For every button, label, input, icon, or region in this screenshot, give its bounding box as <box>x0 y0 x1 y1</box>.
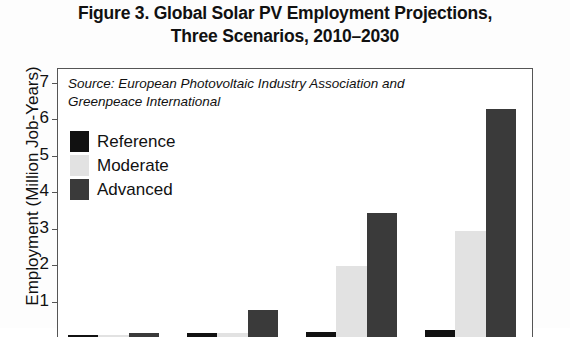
legend-item-advanced[interactable]: Advanced <box>70 177 175 201</box>
bar-advanced-2030 <box>486 109 517 337</box>
legend-swatch-icon-advanced <box>70 179 89 200</box>
legend-swatch-icon-moderate <box>70 155 89 176</box>
y-tick-mark-4 <box>52 192 58 193</box>
y-tick-mark-2 <box>52 265 58 266</box>
chart-title-line-2: Three Scenarios, 2010–2030 <box>0 25 570 48</box>
legend-item-reference[interactable]: Reference <box>70 129 175 153</box>
chart-title: Figure 3. Global Solar PV Employment Pro… <box>0 2 570 48</box>
legend-label: Advanced <box>97 180 173 199</box>
bar-reference-2015 <box>187 333 218 337</box>
y-tick-label-5: 5 <box>27 146 49 163</box>
y-tick-label-4: 4 <box>27 182 49 199</box>
y-tick-mark-7 <box>52 83 58 84</box>
legend-label: Reference <box>97 132 175 151</box>
bar-moderate-2015 <box>217 333 248 337</box>
y-tick-mark-3 <box>52 229 58 230</box>
bar-moderate-2020 <box>336 266 367 337</box>
legend-swatch-icon-reference <box>70 131 89 152</box>
y-tick-mark-6 <box>52 119 58 120</box>
chart-title-line-1: Figure 3. Global Solar PV Employment Pro… <box>0 2 570 25</box>
chart-legend: ReferenceModerateAdvanced <box>70 129 175 201</box>
plot-area: Source: European Photovoltaic Industry A… <box>57 68 533 337</box>
y-tick-label-6: 6 <box>27 109 49 126</box>
y-tick-label-3: 3 <box>27 219 49 236</box>
bar-advanced-2010 <box>129 333 160 337</box>
source-note-line-1: Source: European Photovoltaic Industry A… <box>68 76 378 91</box>
source-note: Source: European Photovoltaic Industry A… <box>68 75 418 111</box>
y-tick-mark-1 <box>52 302 58 303</box>
legend-item-moderate[interactable]: Moderate <box>70 153 175 177</box>
bar-advanced-2020 <box>367 213 398 337</box>
y-tick-label-7: 7 <box>27 73 49 90</box>
bar-reference-2020 <box>306 332 337 337</box>
y-tick-label-1: 1 <box>27 292 49 309</box>
bar-moderate-2030 <box>455 231 486 337</box>
bar-advanced-2015 <box>248 310 279 337</box>
legend-label: Moderate <box>97 156 169 175</box>
y-tick-mark-5 <box>52 156 58 157</box>
bar-reference-2030 <box>425 330 456 337</box>
y-tick-label-2: 2 <box>27 255 49 272</box>
